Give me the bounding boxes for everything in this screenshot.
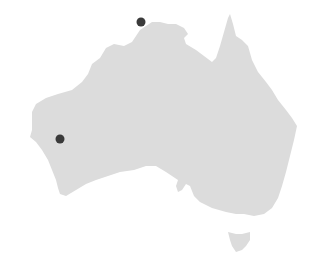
- australia-map: [0, 0, 327, 258]
- location-marker-west[interactable]: [56, 135, 65, 144]
- landmass: [30, 14, 297, 252]
- location-marker-north[interactable]: [137, 18, 146, 27]
- tasmania: [228, 232, 250, 252]
- mainland-australia: [30, 14, 297, 216]
